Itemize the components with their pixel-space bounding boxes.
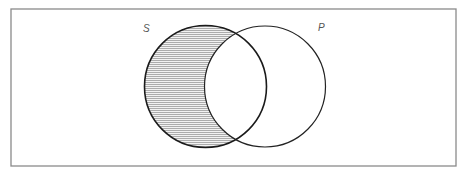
set-p-label: P	[318, 22, 325, 33]
venn-diagram: S P	[0, 0, 468, 175]
shaded-region-s-not-p	[140, 20, 280, 155]
set-s-label: S	[143, 23, 150, 34]
